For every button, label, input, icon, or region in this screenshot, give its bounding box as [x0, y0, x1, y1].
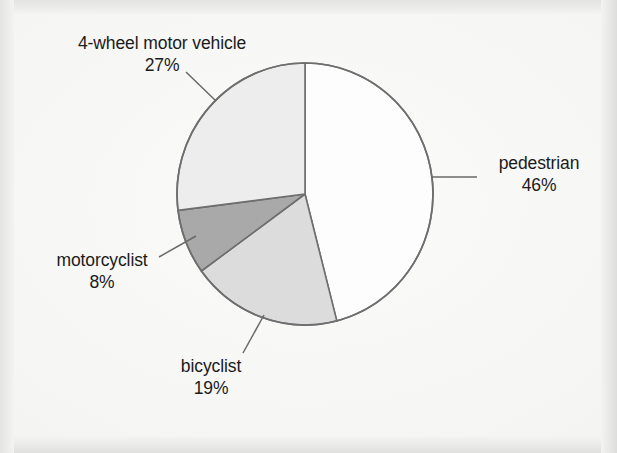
- leader-line-4-wheel-motor-vehicle: [186, 72, 216, 101]
- slice-label-motorcyclist: motorcyclist 8%: [22, 249, 182, 293]
- slice-label-bicyclist-percent: 19%: [140, 377, 282, 399]
- slice-label-motorcyclist-percent: 8%: [22, 271, 182, 293]
- slice-label-motorcyclist-name: motorcyclist: [22, 249, 182, 271]
- slice-label-pedestrian-percent: 46%: [480, 174, 598, 196]
- slice-label-bicyclist-name: bicyclist: [140, 355, 282, 377]
- slice-label-bicyclist: bicyclist 19%: [140, 355, 282, 399]
- slice-label-pedestrian-name: pedestrian: [480, 152, 598, 174]
- pie-chart-figure: 4-wheel motor vehicle 27% pedestrian 46%…: [0, 0, 617, 453]
- slice-label-4-wheel-motor-vehicle-percent: 27%: [46, 54, 278, 76]
- slice-label-4-wheel-motor-vehicle-name: 4-wheel motor vehicle: [46, 32, 278, 54]
- pie-slice-4-wheel-motor-vehicle[interactable]: [177, 63, 305, 210]
- slice-label-pedestrian: pedestrian 46%: [480, 152, 598, 196]
- leader-line-bicyclist: [243, 315, 264, 353]
- slice-label-4-wheel-motor-vehicle: 4-wheel motor vehicle 27%: [46, 32, 278, 76]
